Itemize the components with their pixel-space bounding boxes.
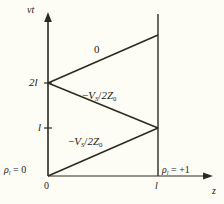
wave-line-second-reflection [48,35,158,83]
wave-line-incident [48,128,158,176]
bounce-diagram-figure: vt z 2l l 0 l ρl = 0 ρl = +1 0 −VS/2Z0 −… [0,0,224,204]
diagram-canvas [0,0,224,204]
y-axis-arrowhead [44,12,52,22]
x-axis-arrowhead [203,172,213,179]
wave-line-first-reflection [48,83,158,128]
x-axis [48,172,213,179]
y-axis [44,12,52,176]
